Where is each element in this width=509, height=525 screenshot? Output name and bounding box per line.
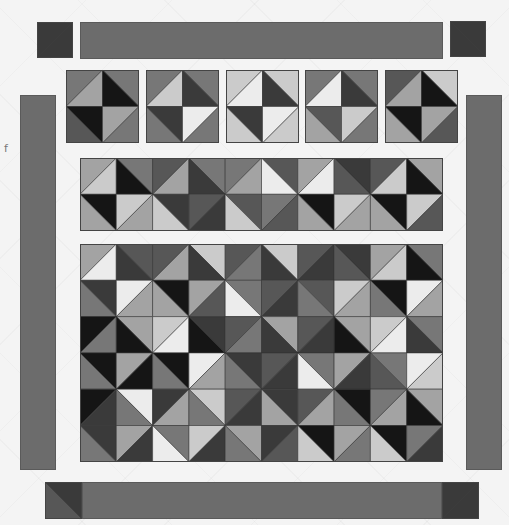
quilt-block-5 [385, 70, 458, 147]
middle-strip-svg [80, 158, 443, 231]
border-top [80, 22, 443, 59]
quilt-block-4 [305, 70, 378, 147]
border-right [466, 95, 502, 470]
corner-square-top-right [450, 21, 486, 57]
border-left [20, 95, 56, 470]
quilt-block-1 [66, 70, 139, 147]
main-grid-svg [80, 244, 443, 462]
quilt-block-2 [146, 70, 219, 147]
cut-off-text: f [4, 142, 8, 155]
corner-square-bottom-right [442, 482, 479, 519]
corner-square-top-left [37, 22, 73, 58]
quilt-block-3 [226, 70, 299, 147]
corner-square-bottom-left [45, 482, 82, 519]
border-bottom [82, 482, 442, 519]
